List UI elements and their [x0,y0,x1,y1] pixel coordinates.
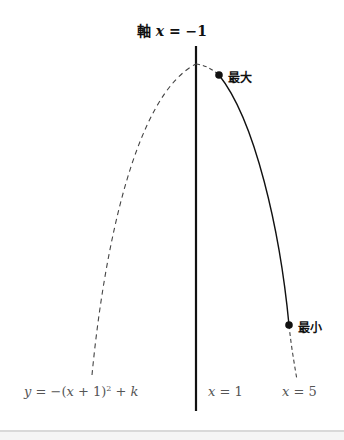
eq-part2: + 1) [74,384,107,399]
axis-title-prefix: 軸 [137,23,151,39]
x1-label: x = 1 [208,384,243,399]
dashed-vertex-segment [196,64,219,75]
x1-val: 1 [235,384,243,399]
dashed-right-tail [289,325,297,380]
axis-title-value: −1 [186,23,207,39]
x5-label: x = 5 [282,384,317,399]
eq-x: x [66,384,73,399]
eq-k: k [131,384,139,399]
max-point [215,71,223,79]
eq-part3: + [111,384,130,399]
eq-part1: = −( [31,384,66,399]
min-point [285,321,293,329]
parabola-diagram: 軸 x = −1 最大 最小 y = −(x + 1)2 + k x = 1 x… [0,0,344,440]
x5-eq: = [289,384,308,399]
axis-title: 軸 x = −1 [0,20,344,40]
solid-domain-segment [219,75,289,325]
axis-title-equals: = [164,23,185,39]
footer-strip [0,432,344,440]
dashed-left-branch [92,64,196,375]
equation-label: y = −(x + 1)2 + k [24,384,138,399]
axis-title-var: x [156,23,164,39]
diagram-canvas [0,0,344,440]
x5-val: 5 [309,384,317,399]
x1-eq: = [215,384,234,399]
max-label: 最大 [228,68,252,85]
min-label: 最小 [298,318,322,335]
